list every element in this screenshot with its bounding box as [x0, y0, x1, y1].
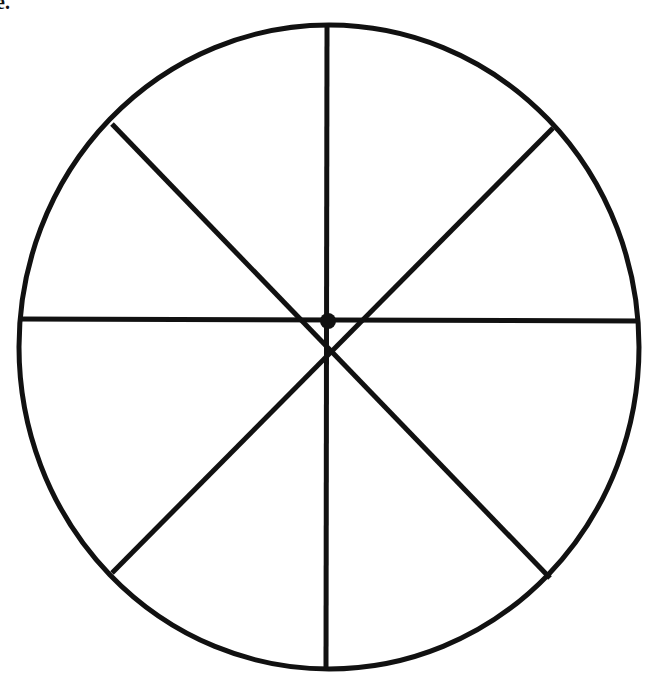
center-dot	[320, 313, 336, 329]
sector-circle-diagram	[0, 0, 665, 680]
